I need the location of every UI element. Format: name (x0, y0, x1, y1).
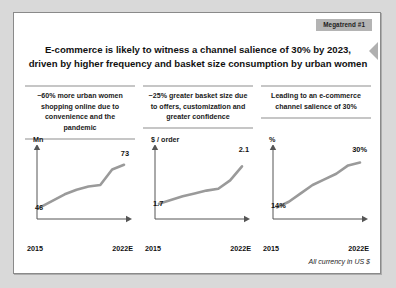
chart-2-plot (143, 145, 253, 233)
slide-frame: Megatrend #1 E-commerce is likely to wit… (13, 12, 381, 274)
chart-3-end-value: 30% (352, 145, 367, 154)
chart-1-plot (25, 145, 135, 233)
column-heading-text-3: Leading to an e-commerce channel salienc… (261, 87, 371, 117)
chart-3-xtick-end: 2022E (348, 244, 369, 253)
chart-1-unit-label: Mn (33, 135, 43, 144)
chart-salience: % 14% 30% 2015 2022E (261, 135, 371, 253)
divider-bottom-2 (143, 127, 253, 129)
column-heading-text-2: ~25% greater basket size due to offers, … (143, 87, 253, 127)
chart-basket-size: $ / order 1.7 2.1 2015 2022E (143, 135, 253, 253)
chart-users: Mn 46 73 2015 2022E (25, 135, 135, 253)
chart-1-xtick-start: 2015 (27, 244, 43, 253)
headline-line-2: driven by higher frequency and basket si… (28, 57, 368, 71)
megatrend-badge: Megatrend #1 (316, 19, 372, 31)
chart-2-end-value: 2.1 (239, 145, 249, 154)
chart-3-plot (261, 145, 371, 233)
chart-1-start-value: 46 (35, 203, 43, 212)
headline-line-1: E-commerce is likely to witness a channe… (28, 43, 368, 57)
chart-1-xtick-end: 2022E (112, 244, 133, 253)
chart-2-start-value: 1.7 (153, 199, 163, 208)
tab-arrow-icon (369, 42, 378, 60)
page-title: E-commerce is likely to witness a channe… (28, 43, 368, 71)
chart-3-unit-label: % (269, 135, 275, 144)
divider-bottom-3 (261, 117, 371, 119)
chart-2-xtick-end: 2022E (230, 244, 251, 253)
column-heading-text-1: ~60% more urban women shopping online du… (25, 87, 135, 138)
charts-row: Mn 46 73 2015 2022E $ / order 1.7 2.1 20… (25, 135, 371, 253)
chart-2-unit-label: $ / order (151, 135, 179, 144)
column-heading-3: Leading to an e-commerce channel salienc… (261, 85, 371, 140)
footnote: All currency in US $ (309, 258, 370, 265)
chart-3-start-value: 14% (271, 201, 286, 210)
column-headings: ~60% more urban women shopping online du… (25, 85, 371, 140)
chart-3-xtick-start: 2015 (263, 244, 279, 253)
chart-2-xtick-start: 2015 (145, 244, 161, 253)
column-heading-1: ~60% more urban women shopping online du… (25, 85, 135, 140)
column-heading-2: ~25% greater basket size due to offers, … (143, 85, 253, 140)
chart-1-end-value: 73 (121, 149, 129, 158)
